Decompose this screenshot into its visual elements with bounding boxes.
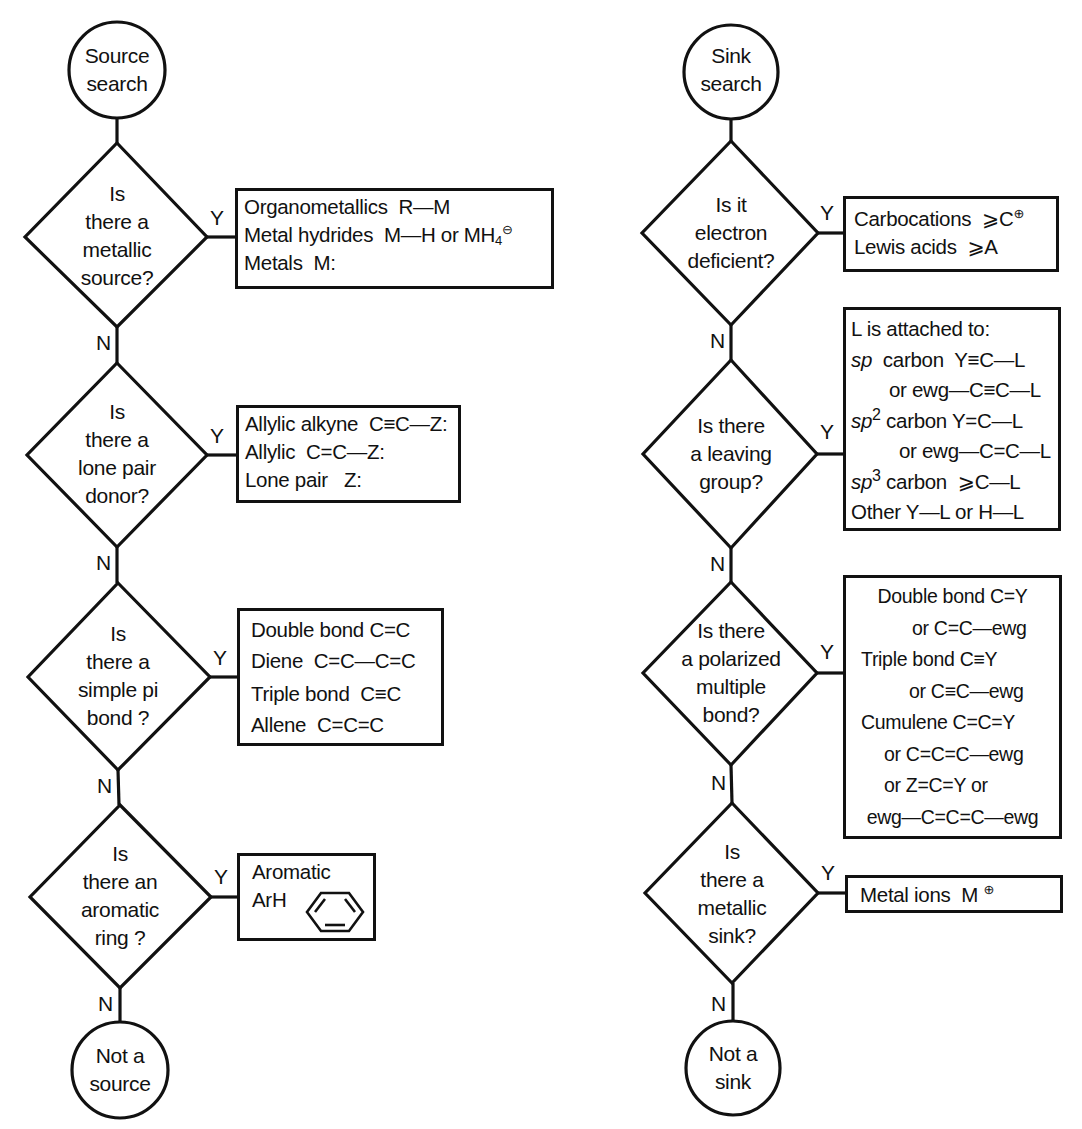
- answer-formula: C=C—C=C: [314, 649, 416, 672]
- question-line: donor?: [57, 482, 177, 510]
- answer-formula: C≡C—Z:: [369, 412, 448, 435]
- start-label-line: Sink: [683, 42, 779, 70]
- answer-text: or C≡C—ewg: [909, 680, 1024, 702]
- benzene-ring-icon: [303, 889, 367, 935]
- question-line: Is: [60, 840, 180, 868]
- answer-text: Double bond C=Y: [878, 585, 1028, 607]
- answer-row: Double bond C=C: [251, 616, 435, 644]
- answer-formula: M: [961, 883, 978, 906]
- subscript: 4: [495, 233, 502, 248]
- start-label-line: search: [69, 70, 165, 98]
- sink-start-label: Sink search: [683, 42, 779, 98]
- question-line: bond?: [667, 701, 795, 729]
- end-label-line: source: [72, 1070, 168, 1098]
- question-line: a leaving: [671, 440, 791, 468]
- answer-label: Lone pair: [245, 468, 328, 491]
- superscript: 3: [872, 467, 881, 484]
- sink-answer-box-leaving-group: L is attached to: sp carbon Y≡C—L or ewg…: [843, 307, 1061, 531]
- answer-text: or C=C=C—ewg: [884, 743, 1023, 765]
- sink-decision-1-question: Is it electron deficient?: [668, 191, 794, 275]
- anion-charge-icon: ⊖: [502, 222, 513, 237]
- answer-row: Aromatic: [252, 858, 367, 886]
- answer-row: Metals M:: [244, 249, 545, 277]
- no-label: N: [98, 993, 113, 1015]
- question-line: ring ?: [60, 924, 180, 952]
- superscript: 2: [872, 406, 881, 423]
- yes-label: Y: [210, 425, 224, 447]
- question-line: Is: [58, 620, 178, 648]
- answer-formula: R—M: [398, 195, 449, 218]
- answer-row: or ewg—C=C—L: [851, 436, 1052, 467]
- cation-charge-icon: ⊕: [983, 882, 994, 897]
- question-line: there a: [57, 208, 177, 236]
- yes-label: Y: [820, 641, 834, 663]
- answer-formula: M—H or MH: [384, 223, 495, 246]
- start-label-line: search: [683, 70, 779, 98]
- answer-row: L is attached to:: [851, 314, 1052, 345]
- answer-row: or C=C=C—ewg: [850, 739, 1055, 771]
- question-line: aromatic: [60, 896, 180, 924]
- sink-decision-4-question: Is there a metallic sink?: [672, 838, 792, 950]
- yes-label: Y: [213, 647, 227, 669]
- answer-label: carbon: [886, 409, 947, 432]
- start-label-line: Source: [69, 42, 165, 70]
- no-label: N: [96, 332, 111, 354]
- answer-formula: Z:: [344, 468, 362, 491]
- answer-label: Allene: [251, 713, 306, 736]
- answer-formula: C=C=C: [317, 713, 384, 736]
- question-line: sink?: [672, 922, 792, 950]
- question-line: there a: [58, 648, 178, 676]
- question-line: Is: [57, 398, 177, 426]
- answer-label: carbon: [886, 470, 947, 493]
- answer-label: Metals: [244, 251, 303, 274]
- no-label: N: [711, 993, 726, 1015]
- answer-label: Lewis acids: [854, 235, 957, 258]
- sink-end-label: Not a sink: [685, 1040, 781, 1096]
- answer-label: Organometallics: [244, 195, 388, 218]
- question-line: lone pair: [57, 454, 177, 482]
- sink-answer-box-electron-deficient: Carbocations ⩾C⊕ Lewis acids ⩾A: [843, 196, 1059, 272]
- question-line: multiple: [667, 673, 795, 701]
- answer-label: Metal hydrides: [244, 223, 373, 246]
- answer-label: carbon: [883, 348, 944, 371]
- yes-label: Y: [820, 421, 834, 443]
- answer-formula: Y≡C—L: [954, 348, 1025, 371]
- answer-row: sp2 carbon Y=C—L: [851, 406, 1052, 437]
- no-label: N: [710, 330, 725, 352]
- no-label: N: [96, 552, 111, 574]
- answer-row: Triple bond C≡C: [251, 680, 435, 708]
- answer-text: or C=C—ewg: [912, 617, 1027, 639]
- sink-answer-box-metal-ions: Metal ions M ⊕: [845, 875, 1063, 913]
- question-line: metallic: [672, 894, 792, 922]
- answer-row: Allylic C=C—Z:: [245, 438, 452, 466]
- answer-label: Allylic alkyne: [245, 412, 358, 435]
- answer-row: or Z=C=Y or: [850, 770, 1055, 802]
- sink-decision-3-question: Is there a polarized multiple bond?: [667, 617, 795, 729]
- answer-row: or C≡C—ewg: [850, 676, 1055, 708]
- answer-row: Lewis acids ⩾A: [854, 233, 1050, 261]
- answer-row: Diene C=C—C=C: [251, 647, 435, 675]
- answer-row: Lone pair Z:: [245, 466, 452, 494]
- question-line: group?: [671, 468, 791, 496]
- question-line: simple pi: [58, 676, 178, 704]
- yes-label: Y: [820, 202, 834, 224]
- question-line: a polarized: [667, 645, 795, 673]
- answer-text: or Z=C=Y or: [884, 774, 988, 796]
- answer-formula: ⩾C—L: [958, 470, 1021, 493]
- answer-text: Other Y—L or H—L: [851, 500, 1024, 523]
- no-label: N: [711, 772, 726, 794]
- source-answer-box-pi-bond: Double bond C=C Diene C=C—C=C Triple bon…: [237, 608, 444, 746]
- answer-row: Double bond C=Y: [850, 581, 1055, 613]
- hybridization: sp: [851, 348, 872, 371]
- answer-formula: ⩾A: [967, 235, 997, 258]
- source-decision-2-question: Is there a lone pair donor?: [57, 398, 177, 510]
- source-decision-4-question: Is there an aromatic ring ?: [60, 840, 180, 952]
- answer-row: Metal hydrides M—H or MH4⊖: [244, 221, 545, 249]
- sink-decision-2-question: Is there a leaving group?: [671, 412, 791, 496]
- question-line: there a: [57, 426, 177, 454]
- answer-row: Allylic alkyne C≡C—Z:: [245, 410, 452, 438]
- question-line: Is there: [671, 412, 791, 440]
- answer-label: Triple bond: [251, 682, 350, 705]
- sink-answer-box-polarized-bond: Double bond C=Y or C=C—ewg Triple bond C…: [843, 575, 1062, 839]
- answer-formula: M:: [313, 251, 335, 274]
